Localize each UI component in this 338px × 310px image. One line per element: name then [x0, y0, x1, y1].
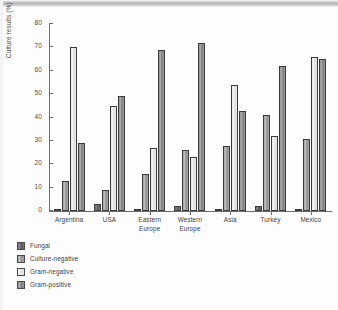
legend-swatch-icon: [17, 255, 25, 263]
bar-gram-negative: [271, 136, 278, 211]
bar-gram-positive: [198, 43, 205, 211]
category-label-line: Mexico: [291, 216, 331, 225]
legend-swatch-icon: [17, 268, 25, 276]
y-axis-title: Culture results (%): [5, 2, 12, 58]
category-label-line: Western: [170, 216, 210, 225]
x-tick-mark: [230, 211, 231, 215]
bar-gram-positive: [279, 66, 286, 211]
bar-fungal: [134, 209, 141, 211]
category-label: WesternEurope: [170, 216, 210, 242]
bar-chart-figure: Culture results (%) 01020304050607080 Ar…: [0, 0, 338, 310]
scan-artifact-band: [0, 0, 338, 7]
category-label: Turkey: [250, 216, 290, 242]
legend-item-gram-positive: Gram-positive: [17, 278, 79, 291]
category-label-line: Argentina: [49, 216, 89, 225]
bar-group-eastern-europe: [130, 24, 170, 211]
bar-fungal: [54, 209, 61, 211]
y-tick-label: 50: [35, 89, 42, 96]
x-tick-mark: [150, 211, 151, 215]
bar-fungal: [94, 204, 101, 211]
x-tick-mark: [311, 211, 312, 215]
legend-swatch-icon: [17, 281, 25, 289]
scan-edge-left: [0, 0, 3, 310]
bar-culture-negative: [223, 146, 230, 211]
x-axis-category-labels: ArgentinaUSAEasternEuropeWesternEuropeAs…: [49, 216, 331, 242]
y-tick-label: 30: [35, 136, 42, 143]
bar-gram-negative: [311, 57, 318, 211]
y-tick-label: 20: [35, 159, 42, 166]
x-tick-mark: [271, 211, 272, 215]
legend-label: Gram-negative: [30, 268, 74, 275]
bar-gram-positive: [118, 96, 125, 211]
category-label: Asia: [210, 216, 250, 242]
y-tick-label: 70: [35, 42, 42, 49]
bar-culture-negative: [102, 190, 109, 211]
y-tick-label: 60: [35, 66, 42, 73]
bar-groups: [49, 24, 331, 211]
bar-group-argentina: [49, 24, 89, 211]
x-tick-mark: [109, 211, 110, 215]
bar-group-asia: [210, 24, 250, 211]
category-label: Mexico: [291, 216, 331, 242]
bar-gram-positive: [239, 111, 246, 212]
bar-fungal: [215, 209, 222, 211]
legend-label: Fungal: [30, 242, 50, 249]
category-label-line: Eastern: [130, 216, 170, 225]
bar-group-mexico: [291, 24, 331, 211]
legend-swatch-icon: [17, 242, 25, 250]
plot-area: 01020304050607080: [49, 24, 331, 211]
bar-fungal: [255, 206, 262, 211]
bar-culture-negative: [263, 115, 270, 211]
bar-gram-negative: [110, 106, 117, 211]
bar-fungal: [174, 206, 181, 211]
y-tick-label: 10: [35, 183, 42, 190]
category-label-line: Europe: [170, 225, 210, 234]
legend-item-gram-negative: Gram-negative: [17, 265, 79, 278]
bar-culture-negative: [303, 139, 310, 211]
category-label-line: USA: [89, 216, 129, 225]
category-label-line: Asia: [210, 216, 250, 225]
bar-group-usa: [89, 24, 129, 211]
x-tick-mark: [190, 211, 191, 215]
bar-gram-positive: [158, 50, 165, 211]
chart-legend: FungalCulture-negativeGram-negativeGram-…: [17, 239, 79, 291]
y-tick-label: 80: [35, 19, 42, 26]
bar-culture-negative: [182, 150, 189, 211]
bar-culture-negative: [62, 181, 69, 211]
bar-gram-positive: [319, 59, 326, 211]
bar-fungal: [295, 209, 302, 211]
bar-group-turkey: [250, 24, 290, 211]
legend-label: Culture-negative: [30, 255, 79, 262]
category-label-line: Europe: [130, 225, 170, 234]
bar-gram-negative: [70, 47, 77, 211]
category-label: USA: [89, 216, 129, 242]
category-label: EasternEurope: [130, 216, 170, 242]
bar-gram-negative: [231, 85, 238, 211]
bar-gram-positive: [78, 143, 85, 211]
bar-group-western-europe: [170, 24, 210, 211]
bar-gram-negative: [150, 148, 157, 211]
bar-gram-negative: [190, 157, 197, 211]
legend-label: Gram-positive: [30, 281, 71, 288]
category-label-line: Turkey: [250, 216, 290, 225]
legend-item-culture-negative: Culture-negative: [17, 252, 79, 265]
y-tick-label: 40: [35, 113, 42, 120]
legend-item-fungal: Fungal: [17, 239, 79, 252]
y-tick-label: 0: [38, 206, 42, 213]
bar-culture-negative: [142, 174, 149, 211]
x-tick-mark: [69, 211, 70, 215]
